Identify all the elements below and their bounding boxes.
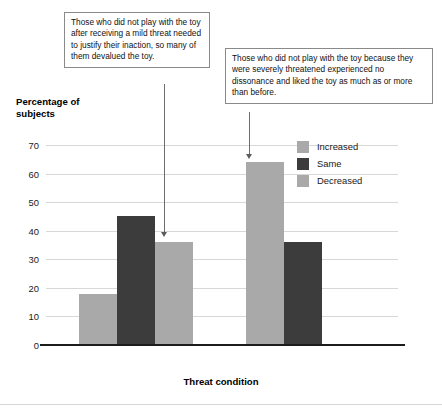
gridline: [46, 231, 398, 232]
bar-mild-threat-decreased: [155, 242, 193, 345]
x-axis-line: [40, 344, 405, 346]
legend-item-same: Same: [297, 155, 362, 172]
y-axis-tick-label: 50: [29, 197, 39, 208]
legend-item-increased: Increased: [297, 138, 362, 155]
bar-severe-threat-same: [284, 242, 322, 345]
legend-swatch-decreased: [297, 175, 309, 187]
x-axis-title: Threat condition: [0, 376, 442, 387]
gridline: [46, 259, 398, 260]
gridline: [46, 288, 398, 289]
y-axis-title-line2: subjects: [16, 108, 55, 119]
annotation-callout-mild-threat: Those who did not play with the toy afte…: [64, 12, 210, 68]
y-axis-tick-label: 0: [34, 340, 39, 351]
leader-line-severe-threat: [249, 112, 250, 156]
legend: IncreasedSameDecreased: [297, 138, 362, 189]
y-axis-tick-label: 70: [29, 140, 39, 151]
legend-swatch-increased: [297, 141, 309, 153]
bottom-divider: [0, 404, 442, 405]
legend-item-decreased: Decreased: [297, 172, 362, 189]
bar-mild-threat-same: [117, 216, 155, 345]
y-axis-title-line1: Percentage of: [16, 96, 79, 107]
y-axis-tick-label: 10: [29, 311, 39, 322]
y-axis-tick-label: 30: [29, 254, 39, 265]
bar-mild-threat-increased: [79, 294, 117, 345]
y-axis-tick-label: 20: [29, 282, 39, 293]
chart-figure: Those who did not play with the toy afte…: [0, 0, 442, 413]
legend-label-decreased: Decreased: [317, 175, 362, 186]
bar-severe-threat-increased: [246, 162, 284, 345]
y-axis-tick-label: 60: [29, 168, 39, 179]
legend-label-same: Same: [317, 158, 342, 169]
gridline: [46, 202, 398, 203]
arrowhead-icon-mild-threat: [161, 232, 167, 237]
y-axis-title: Percentage of subjects: [16, 96, 136, 121]
annotation-callout-severe-threat: Those who did not play with the toy beca…: [225, 48, 433, 104]
legend-swatch-same: [297, 158, 309, 170]
y-axis-tick-label: 40: [29, 225, 39, 236]
leader-line-mild-threat: [164, 84, 165, 233]
legend-label-increased: Increased: [317, 141, 358, 152]
arrowhead-icon-severe-threat: [246, 154, 252, 159]
